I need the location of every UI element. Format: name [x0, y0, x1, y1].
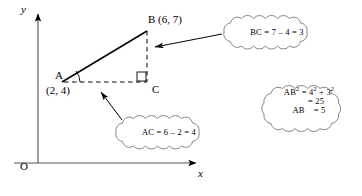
point-c-label: C: [152, 84, 159, 96]
ab-line1-exp-3: 2: [331, 85, 334, 92]
ac-leader-arrow: [101, 92, 122, 120]
ab-callout-line-3: AB= 5: [266, 106, 352, 115]
segment-ab: [62, 31, 147, 82]
right-angle-marker: [137, 72, 146, 81]
ab-line3-pre: AB: [293, 105, 305, 115]
point-a-label: A: [55, 70, 63, 82]
ab-line1-pre: AB: [284, 87, 296, 97]
bc-leader-arrow: [155, 34, 222, 47]
ab-line3-post: = 5: [314, 105, 326, 115]
ac-callout-line-1: AC = 6 – 2 = 4: [116, 128, 222, 137]
y-axis-label: y: [21, 4, 26, 16]
origin-label: O: [20, 161, 28, 173]
point-b-label: B (6, 7): [148, 14, 182, 26]
x-axis-label: x: [198, 168, 203, 180]
bc-callout-text: BC = 7 – 4 = 3: [224, 28, 330, 37]
bc-callout-line-1: BC = 7 – 4 = 3: [224, 28, 330, 37]
geometry-figure: y x O A (2, 4) B (6, 7) C BC = 7 – 4 = 3…: [0, 0, 362, 196]
ac-callout-text: AC = 6 – 2 = 4: [116, 128, 222, 137]
point-a-coordinates: (2, 4): [46, 85, 70, 97]
ab-callout-text: AB2 = 42 + 32 = 25 AB= 5: [266, 88, 352, 115]
ab-callout-line-2: = 25: [266, 97, 352, 106]
